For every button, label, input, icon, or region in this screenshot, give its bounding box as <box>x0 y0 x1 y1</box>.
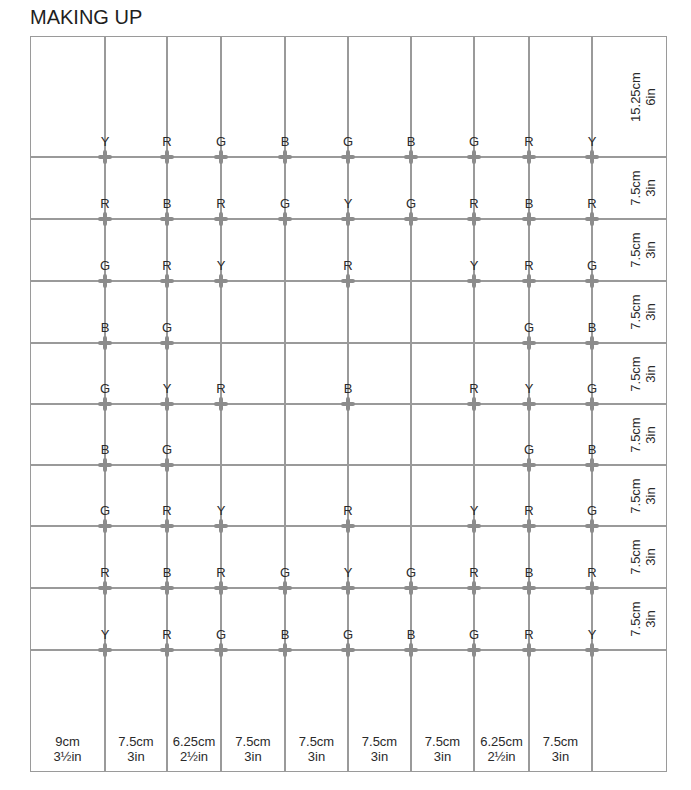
column-dimension-label: 7.5cm3in <box>411 734 474 764</box>
column-dimension-label: 9cm3½in <box>30 734 105 764</box>
dimension-in: 3in <box>529 749 592 764</box>
cross-marker-icon <box>214 519 228 533</box>
row-dimension-label: 7.5cm3in <box>628 584 660 654</box>
cross-marker-icon <box>98 519 112 533</box>
cross-marker-icon <box>585 397 599 411</box>
cross-marker-icon <box>585 150 599 164</box>
row-dimension-label: 7.5cm3in <box>628 153 660 223</box>
cross-marker-icon <box>585 458 599 472</box>
dimension-in: 3in <box>105 749 167 764</box>
cross-marker-icon <box>522 458 536 472</box>
row-dimension-label: 7.5cm3in <box>628 400 660 470</box>
dimension-in: 3in <box>221 749 285 764</box>
color-marker-label: G <box>338 627 358 642</box>
color-marker-label: R <box>338 503 358 518</box>
color-marker-label: Y <box>519 381 539 396</box>
cross-marker-icon <box>467 150 481 164</box>
color-marker-label: B <box>582 442 602 457</box>
cross-marker-icon <box>214 397 228 411</box>
color-marker-label: R <box>582 565 602 580</box>
cross-marker-icon <box>214 150 228 164</box>
dimension-in: 3in <box>643 584 658 654</box>
cross-marker-icon <box>522 274 536 288</box>
cross-marker-icon <box>467 643 481 657</box>
cross-marker-icon <box>522 397 536 411</box>
color-marker-label: G <box>157 442 177 457</box>
dimension-in: 3in <box>643 277 658 347</box>
cross-marker-icon <box>160 397 174 411</box>
cross-marker-icon <box>585 581 599 595</box>
color-marker-label: B <box>401 134 421 149</box>
color-marker-label: B <box>275 134 295 149</box>
color-marker-label: Y <box>464 258 484 273</box>
color-marker-label: G <box>401 196 421 211</box>
color-marker-label: R <box>464 196 484 211</box>
color-marker-label: R <box>464 381 484 396</box>
color-marker-label: B <box>95 442 115 457</box>
cross-marker-icon <box>341 274 355 288</box>
dimension-in: 3in <box>285 749 348 764</box>
color-marker-label: B <box>157 196 177 211</box>
color-marker-label: R <box>519 258 539 273</box>
cross-marker-icon <box>214 212 228 226</box>
cross-marker-icon <box>404 643 418 657</box>
cross-marker-icon <box>467 212 481 226</box>
dimension-cm: 15.25cm <box>628 62 643 132</box>
dimension-cm: 6.25cm <box>167 734 221 749</box>
cross-marker-icon <box>278 643 292 657</box>
color-marker-label: Y <box>95 134 115 149</box>
cross-marker-icon <box>160 212 174 226</box>
dimension-cm: 6.25cm <box>474 734 529 749</box>
cross-marker-icon <box>341 212 355 226</box>
color-marker-label: R <box>211 381 231 396</box>
color-marker-label: B <box>519 565 539 580</box>
dimension-cm: 7.5cm <box>348 734 411 749</box>
cross-marker-icon <box>160 581 174 595</box>
color-marker-label: G <box>275 196 295 211</box>
color-marker-label: B <box>157 565 177 580</box>
color-marker-label: G <box>464 134 484 149</box>
dimension-cm: 7.5cm <box>628 215 643 285</box>
color-marker-label: R <box>157 134 177 149</box>
color-marker-label: G <box>519 442 539 457</box>
color-marker-label: R <box>519 503 539 518</box>
making-up-grid: YRGBGBGRYRBRGYGRBRGRYRYRGBGGBGYRBRYGBGGB… <box>0 0 691 790</box>
dimension-in: 2½in <box>167 749 221 764</box>
cross-marker-icon <box>341 397 355 411</box>
color-marker-label: G <box>95 503 115 518</box>
cross-marker-icon <box>278 581 292 595</box>
column-dimension-label: 7.5cm3in <box>221 734 285 764</box>
color-marker-label: B <box>275 627 295 642</box>
dimension-cm: 7.5cm <box>411 734 474 749</box>
dimension-cm: 7.5cm <box>529 734 592 749</box>
color-marker-label: Y <box>211 503 231 518</box>
color-marker-label: G <box>211 627 231 642</box>
row-dimension-label: 15.25cm6in <box>628 62 660 132</box>
color-marker-label: G <box>519 320 539 335</box>
color-marker-label: R <box>95 196 115 211</box>
cross-marker-icon <box>160 643 174 657</box>
column-dimension-label: 7.5cm3in <box>529 734 592 764</box>
color-marker-label: R <box>519 134 539 149</box>
color-marker-label: B <box>519 196 539 211</box>
cross-marker-icon <box>522 581 536 595</box>
dimension-in: 3in <box>643 400 658 470</box>
dimension-cm: 7.5cm <box>628 522 643 592</box>
dimension-in: 3in <box>643 215 658 285</box>
color-marker-label: R <box>582 196 602 211</box>
color-marker-label: R <box>464 565 484 580</box>
dimension-cm: 7.5cm <box>628 584 643 654</box>
color-marker-label: B <box>582 320 602 335</box>
cross-marker-icon <box>467 274 481 288</box>
dimension-in: 3in <box>643 339 658 409</box>
cross-marker-icon <box>98 274 112 288</box>
dimension-in: 3in <box>643 153 658 223</box>
color-marker-label: G <box>95 258 115 273</box>
color-marker-label: R <box>519 627 539 642</box>
dimension-cm: 7.5cm <box>628 400 643 470</box>
color-marker-label: R <box>157 258 177 273</box>
color-marker-label: B <box>338 381 358 396</box>
color-marker-label: Y <box>464 503 484 518</box>
color-marker-label: G <box>464 627 484 642</box>
row-dimension-label: 7.5cm3in <box>628 215 660 285</box>
